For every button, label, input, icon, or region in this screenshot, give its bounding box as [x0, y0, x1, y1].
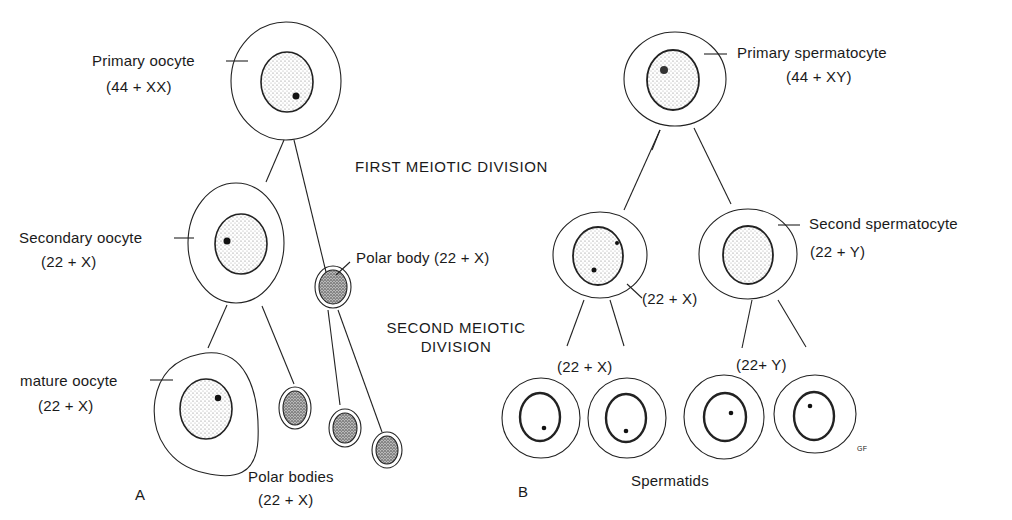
polar-body-2 — [329, 409, 361, 447]
label-primary-spermatocyte: Primary spermatocyte — [737, 44, 887, 62]
connector-line — [567, 300, 584, 346]
connector-line — [624, 130, 660, 210]
artist-signature: GF — [857, 440, 867, 458]
connector-line — [262, 306, 294, 384]
spermatid-x-1 — [502, 378, 580, 458]
leader-line — [627, 284, 642, 298]
heading-second-meiotic-division: SECOND MEIOTIC DIVISION — [371, 319, 541, 355]
connector-line — [208, 305, 227, 348]
connector-line — [294, 140, 326, 272]
label-primary-oocyte: Primary oocyte — [92, 52, 195, 70]
spermatid-y-2 — [774, 375, 856, 453]
spermatid-y-1 — [684, 375, 764, 459]
karyotype-second-spermatocyte: (22 + Y) — [810, 243, 865, 261]
first-polar-body — [315, 266, 351, 308]
karyotype-spermatid-x: (22 + X) — [557, 358, 612, 376]
secondary-spermatocyte-y-cell — [699, 209, 797, 299]
connector-line — [742, 300, 752, 348]
label-polar-bodies: Polar bodies — [248, 468, 334, 486]
polar-body-3 — [372, 432, 402, 468]
label-polar-body: Polar body (22 + X) — [356, 249, 489, 267]
mature-oocyte-cell — [154, 353, 258, 476]
panel-letter-a: A — [135, 486, 145, 504]
karyotype-left-secondary: (22 + X) — [642, 290, 697, 308]
karyotype-secondary-oocyte: (22 + X) — [41, 253, 96, 271]
heading-second-meiotic-line1: SECOND MEIOTIC — [371, 319, 541, 336]
label-spermatids: Spermatids — [631, 472, 709, 490]
karyotype-spermatid-y: (22+ Y) — [736, 356, 787, 374]
connector-line — [328, 310, 340, 405]
karyotype-polar-bodies: (22 + X) — [258, 491, 313, 509]
karyotype-primary-oocyte: (44 + XX) — [106, 78, 172, 96]
label-mature-oocyte: mature oocyte — [20, 372, 118, 390]
leader-line — [336, 262, 350, 275]
secondary-spermatocyte-x-cell — [553, 212, 647, 298]
karyotype-primary-spermatocyte: (44 + XY) — [786, 68, 852, 86]
panel-b-spermatogenesis — [502, 32, 856, 459]
karyotype-mature-oocyte: (22 + X) — [38, 397, 93, 415]
connector-line — [610, 300, 624, 346]
label-secondary-oocyte: Secondary oocyte — [19, 229, 142, 247]
polar-body-1 — [279, 387, 311, 429]
connector-line — [778, 300, 806, 347]
label-second-spermatocyte: Second spermatocyte — [809, 215, 958, 233]
primary-spermatocyte-cell — [624, 32, 726, 126]
primary-oocyte-cell — [231, 22, 341, 140]
spermatid-x-2 — [588, 378, 666, 458]
heading-first-meiotic-division: FIRST MEIOTIC DIVISION — [355, 158, 548, 175]
secondary-oocyte-cell — [188, 183, 284, 303]
panel-letter-b: B — [518, 483, 528, 501]
heading-second-meiotic-line2: DIVISION — [371, 338, 541, 355]
connector-line — [694, 128, 731, 204]
connector-line — [266, 140, 284, 182]
